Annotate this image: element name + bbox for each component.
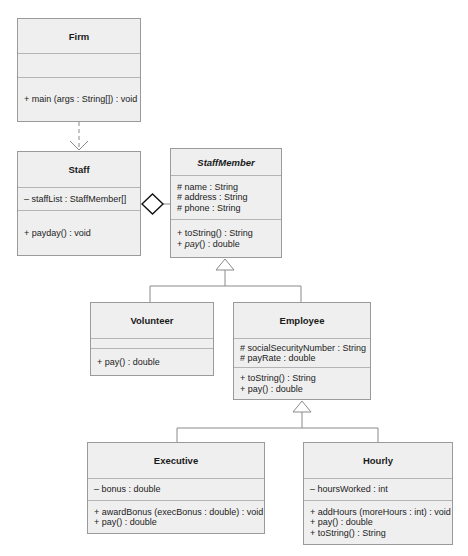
methods-section: + main (args : String[]) : void bbox=[18, 77, 140, 121]
attributes-section bbox=[91, 338, 213, 348]
class-name: Employee bbox=[234, 303, 370, 338]
method: + pay() : double bbox=[97, 357, 207, 368]
class-name: Hourly bbox=[304, 443, 452, 478]
method: + pay() : double bbox=[240, 384, 364, 395]
class-name: Volunteer bbox=[91, 303, 213, 338]
method: + toString() : String bbox=[310, 528, 446, 539]
method: + pay() : double bbox=[310, 517, 446, 528]
attributes-section: – staffList : StaffMember[] bbox=[18, 187, 140, 210]
class-staff[interactable]: Staff – staffList : StaffMember[] + payd… bbox=[17, 151, 141, 256]
attribute: – staffList : StaffMember[] bbox=[24, 194, 134, 205]
attributes-section: – bonus : double bbox=[88, 478, 264, 500]
methods-section: + payday() : void bbox=[18, 210, 140, 255]
attribute: # payRate : double bbox=[240, 353, 364, 364]
attributes-section: # socialSecurityNumber : String # payRat… bbox=[234, 338, 370, 367]
methods-section: + addHours (moreHours : int) : void + pa… bbox=[304, 500, 452, 544]
attribute: # phone : String bbox=[177, 203, 275, 214]
class-firm[interactable]: Firm + main (args : String[]) : void bbox=[17, 18, 141, 122]
method-abstract: + pay() : double bbox=[177, 239, 275, 250]
class-hourly[interactable]: Hourly – hoursWorked : int + addHours (m… bbox=[303, 442, 453, 545]
methods-section: + awardBonus (execBonus : double) : void… bbox=[88, 500, 264, 533]
methods-section: + toString() : String + pay() : double bbox=[234, 367, 370, 399]
class-name: Firm bbox=[18, 19, 140, 53]
method: + main (args : String[]) : void bbox=[24, 94, 134, 105]
aggregation-diamond bbox=[142, 194, 170, 214]
attributes-section: # name : String # address : String # pho… bbox=[171, 175, 281, 219]
class-name: Executive bbox=[88, 443, 264, 478]
method: + addHours (moreHours : int) : void bbox=[310, 507, 446, 518]
class-staffmember[interactable]: StaffMember # name : String # address : … bbox=[170, 148, 282, 258]
class-executive[interactable]: Executive – bonus : double + awardBonus … bbox=[87, 442, 265, 534]
methods-section: + pay() : double bbox=[91, 348, 213, 375]
generalization-staffmember bbox=[150, 259, 301, 302]
attributes-section bbox=[18, 53, 140, 77]
method: + toString() : String bbox=[240, 373, 364, 384]
method: + payday() : void bbox=[24, 228, 134, 239]
attribute: – hoursWorked : int bbox=[310, 484, 446, 495]
method: + pay() : double bbox=[94, 517, 258, 528]
attributes-section: – hoursWorked : int bbox=[304, 478, 452, 500]
class-name: StaffMember bbox=[171, 149, 281, 175]
class-employee[interactable]: Employee # socialSecurityNumber : String… bbox=[233, 302, 371, 400]
methods-section: + toString() : String + pay() : double bbox=[171, 219, 281, 257]
class-volunteer[interactable]: Volunteer + pay() : double bbox=[90, 302, 214, 376]
attribute: # socialSecurityNumber : String bbox=[240, 343, 364, 354]
attribute: # address : String bbox=[177, 192, 275, 203]
attribute: # name : String bbox=[177, 182, 275, 193]
dependency-arrow bbox=[70, 122, 88, 150]
class-name: Staff bbox=[18, 152, 140, 187]
method: + toString() : String bbox=[177, 228, 275, 239]
attribute: – bonus : double bbox=[94, 484, 258, 495]
method: + awardBonus (execBonus : double) : void bbox=[94, 507, 258, 518]
generalization-employee bbox=[177, 401, 378, 442]
